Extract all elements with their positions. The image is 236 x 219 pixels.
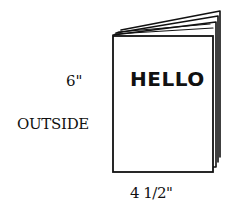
- view-label: OUTSIDE: [17, 115, 89, 133]
- booklet-drawing: [0, 0, 236, 219]
- front-cover: [113, 36, 213, 172]
- height-dimension-label: 6": [66, 72, 82, 90]
- cover-title: HELLO: [130, 67, 205, 91]
- booklet-diagram: HELLO 6" OUTSIDE 4 1/2": [0, 0, 236, 219]
- width-dimension-label: 4 1/2": [130, 184, 172, 202]
